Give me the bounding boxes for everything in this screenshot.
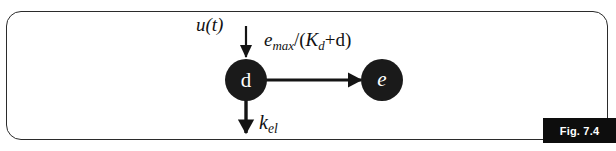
rate-denominator-base: K [306, 29, 319, 50]
rate-denominator-subscript: d [318, 38, 324, 53]
elimination-subscript: el [268, 121, 278, 136]
input-function-paren: (t) [206, 14, 224, 35]
figure-container: d e u(t) emax/(Kd+d) kel Fig. 7.4 [0, 0, 616, 151]
input-function-base: u [196, 14, 206, 35]
input-function-label: u(t) [196, 15, 223, 34]
conversion-rate-label: emax/(Kd+d) [264, 30, 351, 49]
rate-numerator-subscript: max [272, 38, 294, 53]
elimination-rate-label: kel [259, 112, 278, 132]
node-d-circle [225, 59, 267, 101]
node-e-circle [361, 59, 403, 101]
rate-plus-term: +d) [325, 29, 352, 50]
rate-slash: /( [294, 29, 306, 50]
elimination-base: k [259, 111, 268, 133]
compartment-flow-diagram [0, 0, 616, 151]
figure-number-badge: Fig. 7.4 [543, 118, 616, 143]
